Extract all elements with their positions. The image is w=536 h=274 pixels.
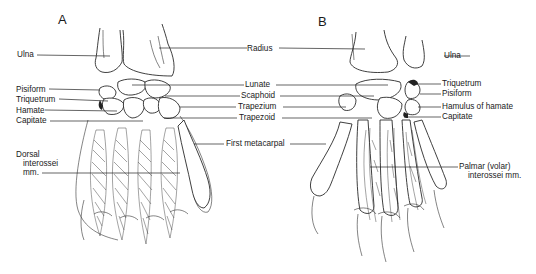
label-scaphoid: Scaphoid xyxy=(241,91,275,100)
panel-letter-b: B xyxy=(318,14,327,29)
label-pisiform-b: Pisiform xyxy=(442,89,472,98)
label-pisiform-a: Pisiform xyxy=(16,85,46,94)
label-hamate-a: Hamate xyxy=(16,106,45,115)
panel-a-drawing xyxy=(76,24,212,244)
label-trapezium: Trapezium xyxy=(238,102,276,111)
label-triquetrum-b: Triquetrum xyxy=(442,79,481,88)
label-radius: Radius xyxy=(247,44,273,53)
label-lunate: Lunate xyxy=(245,80,270,89)
label-triquetrum-a: Triquetrum xyxy=(16,95,55,104)
label-hamulus-of-hamate: Hamulus of hamate xyxy=(442,102,513,111)
label-capitate-b: Capitate xyxy=(442,112,473,121)
label-first-metacarpal: First metacarpal xyxy=(226,139,285,148)
panel-b-drawing xyxy=(310,30,446,262)
label-trapezoid: Trapezoid xyxy=(239,113,275,122)
label-dorsal-interossei-line3: mm. xyxy=(23,168,39,177)
label-dorsal-interossei-line1: Dorsal xyxy=(16,150,40,159)
dorsal-interossei-muscles xyxy=(90,128,177,244)
label-ulna-b: Ulna xyxy=(444,51,461,60)
panel-letter-a: A xyxy=(58,12,67,27)
anatomy-figure: A B Ulna Pisiform Triquetrum Hamate Capi… xyxy=(0,0,536,274)
label-dorsal-interossei-line2: interossei xyxy=(23,159,58,168)
label-capitate-a: Capitate xyxy=(16,116,47,125)
label-palmar-interossei-line2: interossei mm. xyxy=(468,171,521,180)
hand-wrist-illustration xyxy=(0,0,536,274)
label-palmar-interossei-line1: Palmar (volar) xyxy=(459,162,510,171)
label-ulna-a: Ulna xyxy=(17,50,34,59)
